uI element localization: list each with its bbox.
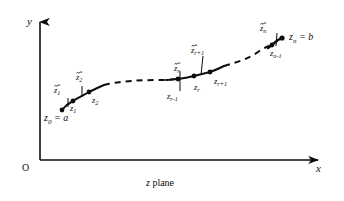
point-zn [279,35,284,40]
tick-ztilde-r-plus-1 [201,56,203,75]
point-z2 [87,90,92,95]
figure-caption: z plane [146,178,174,188]
label-zn-equals-b: zn = b [289,32,313,42]
label-z2-sub: 2 [95,99,98,106]
y-axis-label: y [27,16,32,27]
point-zr+1 [208,70,213,75]
label-zn-minus-1: zn-1 [270,49,282,58]
label-ztilde-n-sub: n [263,27,266,34]
label-ztilde-1-sub: 1 [57,89,60,96]
label-ztilde-1: z1 [54,86,60,95]
curve-segment-dashed-right [224,45,272,66]
label-zn-minus-1-sub: n-1 [273,52,281,59]
label-ztilde-r: zr [174,64,180,73]
origin-label: O [22,163,29,173]
label-ztilde-r-glyph: zr [174,63,180,73]
label-ztilde-r-plus-1: zr+1 [191,46,204,55]
z-plane-contour-figure: y x O zn = b z0 = a z1 z2 zr-1 zr zr+1 z… [0,0,344,201]
label-ztilde-n-glyph: zn [260,23,266,33]
point-zr-1 [176,77,181,82]
label-zr-plus-1: zr+1 [214,77,227,86]
label-ztilde-2-sub: 2 [79,76,82,83]
label-ztilde-1-glyph: z1 [54,85,60,95]
label-z0-equals-a-sub: 0 [48,118,52,126]
label-ztilde-2-glyph: z2 [76,72,82,82]
label-z1-sub: 1 [73,107,76,114]
label-z1: z1 [70,104,76,113]
label-zn-equals-b-sub: n [293,37,297,45]
label-z2: z2 [92,96,98,105]
label-ztilde-r-plus-1-glyph: zr+1 [191,45,204,55]
label-ztilde-r-plus-1-sub: r+1 [194,49,204,56]
label-z0-equals-a: z0 = a [44,113,68,123]
point-zn-1 [270,43,275,48]
tick-ztilde-n [276,33,277,46]
label-zn-equals-b-eq: = b [296,31,313,42]
label-zr: zr [194,83,200,92]
label-ztilde-2: z2 [76,73,82,82]
point-zr [192,74,197,79]
label-zr-sub: r [197,86,199,93]
label-zr-minus-1-sub: r-1 [170,95,177,102]
label-ztilde-n: zn [260,24,266,33]
caption-rest: plane [150,177,174,188]
x-axis-label: x [316,163,321,174]
label-zr-minus-1: zr-1 [167,92,178,101]
label-ztilde-r-sub: r [177,67,179,74]
label-z0-equals-a-eq: = a [51,112,68,123]
label-zr-plus-1-sub: r+1 [217,80,227,87]
